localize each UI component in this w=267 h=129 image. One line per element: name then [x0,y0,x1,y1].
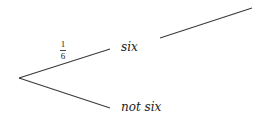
outcome-label-not-six: not six [121,101,161,113]
outcome-label-six: six [121,41,138,53]
six-continuation-line [160,8,252,38]
fraction-denominator: 6 [61,52,66,61]
probability-fraction-six: 1 6 [60,40,66,61]
fraction-numerator: 1 [61,40,66,49]
branch-not-six-line [19,78,110,108]
